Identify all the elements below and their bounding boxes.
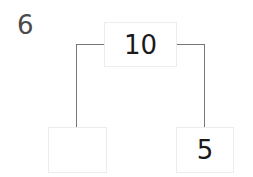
connector-left-horizontal [76,44,104,45]
connector-left-vertical [76,44,77,127]
connector-right-horizontal [177,44,205,45]
part-right-value: 5 [197,135,214,165]
connector-right-vertical [204,44,205,127]
whole-box: 10 [104,22,177,67]
part-box-left[interactable] [48,127,107,173]
question-number: 6 [17,12,34,38]
part-box-right: 5 [176,127,234,173]
whole-value: 10 [124,30,157,60]
